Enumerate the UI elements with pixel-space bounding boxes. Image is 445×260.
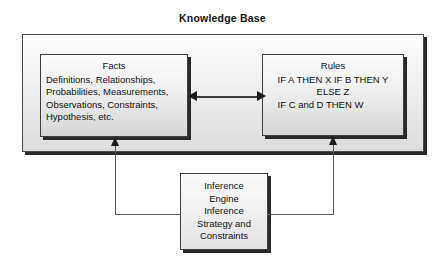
facts-box: Facts Definitions, Relationships, Probab…	[40, 54, 188, 137]
inference-engine-line: Inference	[181, 180, 267, 193]
rules-lines: IF A THEN X IF B THEN Y ELSE Z IF C and …	[263, 74, 403, 111]
knowledge-base-diagram: Knowledge Base Facts Definitions, Relati…	[0, 0, 445, 260]
rules-line: IF B THEN Y	[334, 74, 389, 85]
engine-rules-arrow-icon	[329, 136, 337, 145]
engine-rules-horizontal-segment	[267, 214, 334, 215]
facts-lines: Definitions, Relationships, Probabilitie…	[41, 74, 187, 123]
rules-heading: Rules	[263, 60, 403, 71]
facts-line: Observations, Constraints,	[46, 99, 187, 111]
rules-line: IF A THEN X	[278, 74, 332, 85]
rules-box: Rules IF A THEN X IF B THEN Y ELSE Z IF …	[262, 54, 404, 136]
inference-engine-line: Strategy and	[181, 218, 267, 231]
inference-engine-line: Inference	[181, 205, 267, 218]
engine-facts-horizontal-segment	[115, 214, 181, 215]
facts-line: Probabilities, Measurements,	[46, 86, 187, 98]
engine-facts-arrow-icon	[111, 137, 119, 146]
engine-facts-vertical-segment	[115, 146, 116, 215]
diagram-title: Knowledge Base	[0, 12, 445, 24]
rules-line: ELSE Z	[278, 86, 389, 98]
facts-line: Definitions, Relationships,	[46, 74, 187, 86]
engine-rules-vertical-segment	[333, 145, 334, 215]
facts-line: Hypothesis, etc.	[46, 111, 187, 123]
arrow-left-icon	[188, 91, 197, 101]
inference-engine-line: Constraints	[181, 230, 267, 243]
inference-engine-line: Engine	[181, 193, 267, 206]
inference-engine-box: Inference Engine Inference Strategy and …	[180, 173, 268, 250]
rules-line: IF C and D THEN W	[278, 99, 364, 110]
facts-heading: Facts	[41, 60, 187, 71]
facts-rules-connector-line	[196, 96, 258, 98]
arrow-right-icon	[257, 91, 266, 101]
